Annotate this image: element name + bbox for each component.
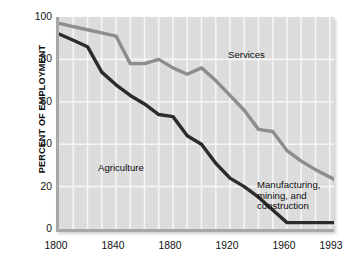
x-tick-label: 1920 [207, 241, 247, 251]
x-tick-label: 1840 [93, 241, 133, 251]
x-tick-label: 1880 [150, 241, 190, 251]
x-axis-tick-labels: 180018401880192019601993 [0, 0, 350, 273]
chart-figure: PERCENT OF EMPLOYMENT 020406080100 18001… [0, 0, 350, 273]
x-tick-label: 1960 [264, 241, 304, 251]
x-tick-label: 1800 [36, 241, 76, 251]
x-tick-label: 1993 [311, 241, 350, 251]
manufacturing-annotation: Manufacturing, mining, and construction [257, 180, 320, 212]
manufacturing-annotation-line3: construction [257, 201, 320, 212]
agriculture-annotation: Agriculture [98, 163, 144, 174]
services-annotation: Services [228, 50, 265, 61]
